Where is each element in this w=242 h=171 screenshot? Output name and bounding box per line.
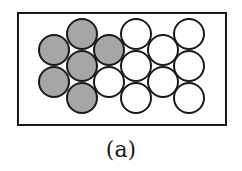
filled-circle: [39, 35, 69, 65]
filled-circle: [67, 83, 97, 113]
empty-circle: [174, 19, 204, 49]
circle-group: [39, 19, 204, 113]
empty-circle: [121, 19, 151, 49]
empty-circle: [148, 35, 178, 65]
filled-circle: [39, 67, 69, 97]
empty-circle: [148, 67, 178, 97]
empty-circle: [174, 83, 204, 113]
empty-circle: [121, 83, 151, 113]
empty-circle: [174, 51, 204, 81]
empty-circle: [94, 67, 124, 97]
figure-caption: (a): [0, 137, 242, 162]
filled-circle: [67, 19, 97, 49]
empty-circle: [121, 51, 151, 81]
filled-circle: [94, 35, 124, 65]
filled-circle: [67, 51, 97, 81]
